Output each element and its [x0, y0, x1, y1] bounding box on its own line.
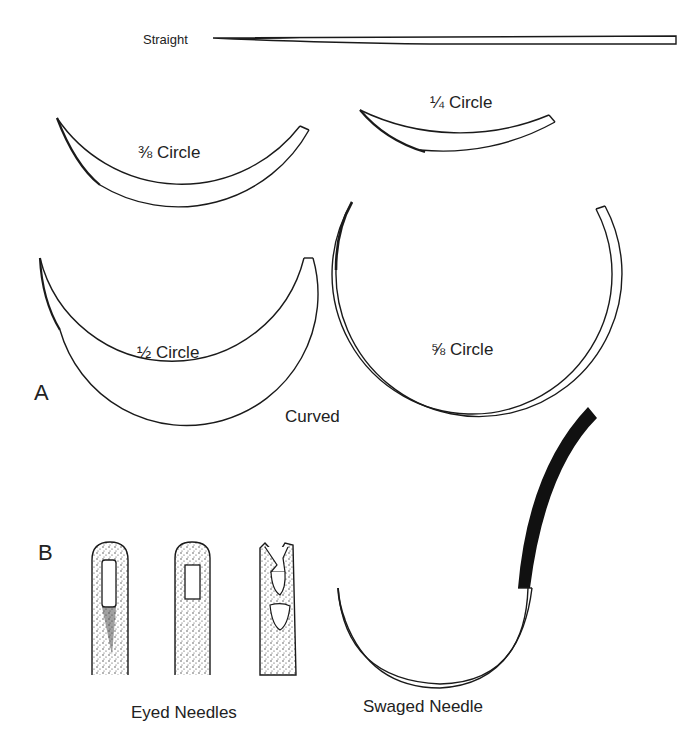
panel-a-label: A [34, 380, 49, 406]
swaged-needle [338, 407, 597, 688]
panel-b-label: B [38, 540, 53, 566]
half-circle-label: ½ Circle [137, 343, 199, 363]
straight-label: Straight [143, 32, 188, 47]
eyed-needle-3 [260, 543, 296, 675]
straight-needle [213, 36, 676, 44]
five-eighths-circle-label: ⅝ Circle [431, 340, 493, 360]
eyed-needles-caption: Eyed Needles [131, 703, 237, 723]
quarter-circle-label: ¼ Circle [430, 93, 492, 113]
curved-caption: Curved [285, 407, 340, 427]
eyed-needle-1 [92, 542, 128, 675]
three-eighths-circle-label: ⅜ Circle [138, 143, 200, 163]
five-eighths-circle-needle [332, 202, 622, 417]
needle-diagram [0, 0, 694, 749]
quarter-circle-needle [360, 110, 555, 152]
eyed-needle-2 [175, 542, 210, 675]
half-circle-needle [40, 258, 318, 426]
swaged-needle-caption: Swaged Needle [363, 697, 483, 717]
